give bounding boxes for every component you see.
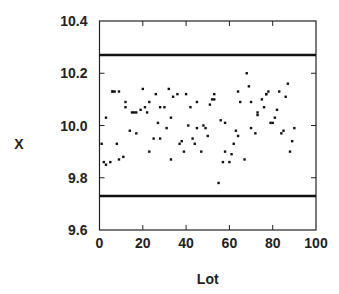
control-chart: 020406080100 9.69.810.010.210.4 Lot X bbox=[0, 0, 339, 294]
data-point bbox=[133, 111, 135, 113]
data-point bbox=[280, 132, 282, 134]
data-point bbox=[124, 106, 126, 108]
data-point bbox=[274, 116, 276, 118]
data-point bbox=[204, 127, 206, 129]
data-point bbox=[243, 158, 245, 160]
x-axis-title: Lot bbox=[197, 271, 219, 287]
data-point bbox=[191, 137, 193, 139]
data-point bbox=[263, 106, 265, 108]
data-point bbox=[159, 106, 161, 108]
data-points bbox=[100, 72, 295, 184]
data-point bbox=[293, 127, 295, 129]
data-point bbox=[170, 116, 172, 118]
data-point bbox=[181, 140, 183, 142]
data-point bbox=[282, 130, 284, 132]
data-point bbox=[157, 122, 159, 124]
data-point bbox=[118, 90, 120, 92]
y-tick-label: 10.0 bbox=[60, 118, 87, 134]
data-point bbox=[113, 90, 115, 92]
data-point bbox=[213, 98, 215, 100]
data-point bbox=[105, 163, 107, 165]
data-point bbox=[189, 106, 191, 108]
data-point bbox=[256, 111, 258, 113]
data-point bbox=[111, 90, 113, 92]
data-point bbox=[118, 158, 120, 160]
y-tick-label: 9.8 bbox=[68, 170, 88, 186]
data-point bbox=[155, 93, 157, 95]
data-point bbox=[211, 98, 213, 100]
x-tick-label: 0 bbox=[96, 235, 104, 251]
data-point bbox=[124, 101, 126, 103]
data-point bbox=[116, 143, 118, 145]
data-point bbox=[239, 101, 241, 103]
x-tick-label: 20 bbox=[135, 235, 151, 251]
data-point bbox=[172, 96, 174, 98]
data-point bbox=[170, 158, 172, 160]
data-point bbox=[165, 127, 167, 129]
data-point bbox=[217, 182, 219, 184]
data-point bbox=[276, 109, 278, 111]
data-point bbox=[287, 83, 289, 85]
data-point bbox=[284, 96, 286, 98]
data-point bbox=[187, 124, 189, 126]
data-point bbox=[152, 137, 154, 139]
data-point bbox=[237, 90, 239, 92]
x-tick-label: 80 bbox=[265, 235, 281, 251]
data-point bbox=[250, 127, 252, 129]
data-point bbox=[168, 88, 170, 90]
data-point bbox=[220, 119, 222, 121]
data-point bbox=[267, 90, 269, 92]
data-point bbox=[289, 150, 291, 152]
data-point bbox=[207, 135, 209, 137]
data-point bbox=[224, 150, 226, 152]
plot-frame bbox=[100, 21, 317, 230]
control-limit-lines bbox=[100, 55, 317, 196]
data-point bbox=[254, 132, 256, 134]
data-point bbox=[159, 137, 161, 139]
data-point bbox=[200, 150, 202, 152]
data-point bbox=[148, 150, 150, 152]
y-tick-label: 10.2 bbox=[60, 65, 87, 81]
data-point bbox=[202, 124, 204, 126]
data-point bbox=[269, 122, 271, 124]
data-point bbox=[146, 111, 148, 113]
data-point bbox=[129, 130, 131, 132]
data-point bbox=[122, 156, 124, 158]
data-point bbox=[176, 93, 178, 95]
data-point bbox=[194, 143, 196, 145]
data-point bbox=[233, 143, 235, 145]
data-point bbox=[261, 98, 263, 100]
data-point bbox=[291, 140, 293, 142]
data-point bbox=[135, 132, 137, 134]
data-point bbox=[196, 127, 198, 129]
data-point bbox=[109, 161, 111, 163]
data-point bbox=[237, 135, 239, 137]
data-point bbox=[230, 153, 232, 155]
data-point bbox=[265, 93, 267, 95]
data-point bbox=[256, 114, 258, 116]
data-point bbox=[196, 101, 198, 103]
data-point bbox=[250, 101, 252, 103]
data-point bbox=[209, 103, 211, 105]
data-point bbox=[178, 143, 180, 145]
y-tick-label: 9.6 bbox=[68, 222, 88, 238]
data-point bbox=[144, 106, 146, 108]
data-point bbox=[163, 106, 165, 108]
data-point bbox=[185, 93, 187, 95]
x-tick-label: 100 bbox=[304, 235, 328, 251]
y-axis-title: X bbox=[14, 136, 24, 152]
data-point bbox=[213, 93, 215, 95]
data-point bbox=[248, 85, 250, 87]
data-point bbox=[135, 111, 137, 113]
data-point bbox=[100, 143, 102, 145]
data-point bbox=[183, 150, 185, 152]
x-tick-label: 40 bbox=[178, 235, 194, 251]
data-point bbox=[278, 90, 280, 92]
data-point bbox=[235, 130, 237, 132]
data-point bbox=[131, 111, 133, 113]
data-point bbox=[272, 122, 274, 124]
x-tick-label: 60 bbox=[222, 235, 238, 251]
data-point bbox=[103, 161, 105, 163]
data-point bbox=[224, 122, 226, 124]
data-point bbox=[139, 109, 141, 111]
